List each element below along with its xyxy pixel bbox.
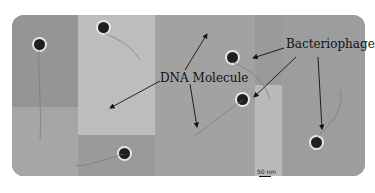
bacteriophage-label: Bacteriophage (286, 37, 375, 51)
scale-bar (259, 176, 271, 177)
dna-molecule-label: DNA Molecule (160, 71, 248, 85)
scale-bar-label: 50 nm (257, 168, 276, 175)
